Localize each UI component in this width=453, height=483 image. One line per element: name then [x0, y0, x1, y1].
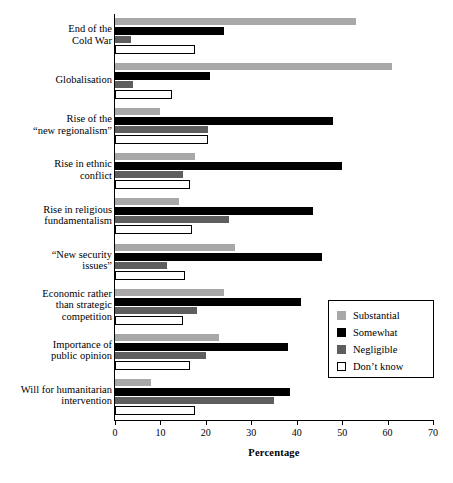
- bar-negligible: [115, 171, 183, 178]
- bar-dontknow: [115, 135, 208, 144]
- category-label: Rise in ethnic conflict: [0, 158, 112, 181]
- category-label: Will for humanitarian intervention: [0, 384, 112, 407]
- bar-dontknow: [115, 225, 192, 234]
- legend-label: Somewhat: [353, 327, 397, 338]
- bar-negligible: [115, 126, 208, 133]
- legend-item: Don’t know: [337, 358, 433, 375]
- bar-substantial: [115, 289, 224, 296]
- bar-substantial: [115, 334, 219, 341]
- x-tick-label: 60: [373, 427, 403, 439]
- category-label: “New security issues”: [0, 249, 112, 272]
- category-label: Rise in religious fundamentalism: [0, 204, 112, 227]
- legend-swatch-icon: [337, 328, 346, 337]
- bar-negligible: [115, 397, 274, 404]
- legend-item: Somewhat: [337, 324, 433, 341]
- bar-somewhat: [115, 388, 290, 396]
- legend-item: Substantial: [337, 307, 433, 324]
- bar-somewhat: [115, 343, 288, 351]
- bar-negligible: [115, 307, 197, 314]
- legend-label: Substantial: [353, 310, 400, 321]
- bar-substantial: [115, 379, 151, 386]
- x-tick-label: 50: [327, 427, 357, 439]
- bar-somewhat: [115, 298, 301, 306]
- bar-substantial: [115, 18, 356, 25]
- bar-negligible: [115, 216, 229, 223]
- bar-substantial: [115, 63, 392, 70]
- bar-substantial: [115, 198, 179, 205]
- x-tick-label: 20: [191, 427, 221, 439]
- legend-label: Negligible: [353, 344, 397, 355]
- category-label: Economic rather than strategic competiti…: [0, 288, 112, 323]
- bar-somewhat: [115, 253, 322, 261]
- x-tick: [160, 420, 161, 425]
- x-axis-line: [114, 420, 433, 421]
- x-tick-label: 40: [282, 427, 312, 439]
- bar-somewhat: [115, 162, 342, 170]
- category-label: Globalisation: [0, 74, 112, 86]
- x-tick: [433, 420, 434, 425]
- bar-negligible: [115, 262, 167, 269]
- x-tick: [297, 420, 298, 425]
- category-label: Rise of the “new regionalism”: [0, 113, 112, 136]
- x-tick-label: 30: [236, 427, 266, 439]
- bar-substantial: [115, 153, 195, 160]
- x-tick-label: 0: [100, 427, 130, 439]
- x-tick-label: 70: [418, 427, 448, 439]
- bar-dontknow: [115, 406, 195, 415]
- x-axis-title: Percentage: [115, 447, 433, 458]
- legend-swatch-icon: [337, 345, 346, 354]
- bar-substantial: [115, 108, 160, 115]
- bar-negligible: [115, 36, 131, 43]
- bar-dontknow: [115, 90, 172, 99]
- bar-somewhat: [115, 72, 210, 80]
- legend-label: Don’t know: [353, 361, 403, 372]
- chart-legend: SubstantialSomewhatNegligibleDon’t know: [328, 300, 434, 378]
- legend-item: Negligible: [337, 341, 433, 358]
- bar-dontknow: [115, 316, 183, 325]
- bar-somewhat: [115, 207, 313, 215]
- bar-substantial: [115, 244, 235, 251]
- x-tick: [342, 420, 343, 425]
- bar-negligible: [115, 81, 133, 88]
- bar-dontknow: [115, 361, 190, 370]
- x-tick: [115, 420, 116, 425]
- legend-swatch-icon: [337, 311, 346, 320]
- bar-negligible: [115, 352, 206, 359]
- bar-dontknow: [115, 180, 190, 189]
- legend-swatch-icon: [337, 362, 346, 371]
- bar-somewhat: [115, 27, 224, 35]
- bar-chart: 010203040506070 End of the Cold WarGloba…: [0, 0, 453, 483]
- category-label: Importance of public opinion: [0, 339, 112, 362]
- bar-dontknow: [115, 271, 185, 280]
- x-tick: [388, 420, 389, 425]
- category-label: End of the Cold War: [0, 23, 112, 46]
- bar-dontknow: [115, 45, 195, 54]
- bar-somewhat: [115, 117, 333, 125]
- x-tick: [251, 420, 252, 425]
- x-tick: [206, 420, 207, 425]
- x-tick-label: 10: [145, 427, 175, 439]
